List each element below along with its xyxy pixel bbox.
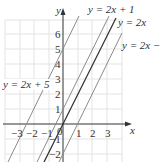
label-line-2x-plus-1: y = 2x + 1 [88, 4, 135, 15]
y-tick: 2 [55, 89, 61, 100]
x-tick: 2 [90, 128, 96, 139]
y-tick: −2 [49, 149, 61, 160]
label-line-2x: y = 2x [118, 17, 146, 28]
x-tick: 3 [105, 128, 111, 139]
y-tick: 5 [55, 44, 61, 55]
y-tick: 6 [55, 29, 61, 40]
y-axis-label: y [56, 5, 61, 16]
x-tick: 1 [76, 128, 82, 139]
y-tick: −1 [49, 134, 61, 145]
x-tick: −2 [26, 128, 38, 139]
y-axis-arrow [61, 8, 66, 15]
x-tick: −3 [11, 128, 23, 139]
x-axis-label: x [130, 125, 135, 136]
label-line-2x-minus-2: y = 2x − 2 [122, 40, 163, 51]
y-tick: 3 [55, 74, 61, 85]
label-line-2x-plus-5: y = 2x + 5 [3, 79, 50, 90]
y-tick: 1 [55, 104, 61, 115]
chart: y = 2x + 1 y = 2x y = 2x − 2 y = 2x + 5 … [0, 0, 163, 162]
y-tick: 4 [55, 59, 61, 70]
